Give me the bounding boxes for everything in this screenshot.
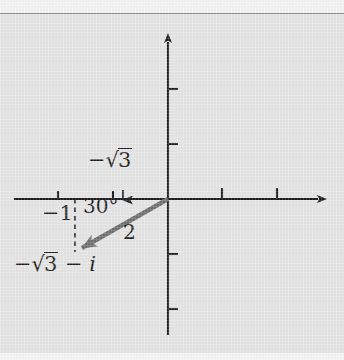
real-part-label: −√3: [88, 148, 132, 171]
argand-diagram-plot: [0, 0, 344, 360]
imaginary-axis: [168, 42, 178, 335]
real-part-radicand: 3: [118, 148, 132, 171]
imaginary-part-label: −1: [42, 203, 73, 224]
figure-container: −√3 −1 30° 2 −√3 − i: [0, 0, 344, 360]
angle-label: 30°: [83, 196, 118, 216]
magnitude-label: 2: [123, 222, 136, 242]
real-part-label-text: −: [88, 148, 106, 172]
page-margin-bottom: [0, 353, 344, 360]
real-axis: [14, 188, 318, 199]
complex-number-label: −√3 − i: [14, 252, 96, 275]
